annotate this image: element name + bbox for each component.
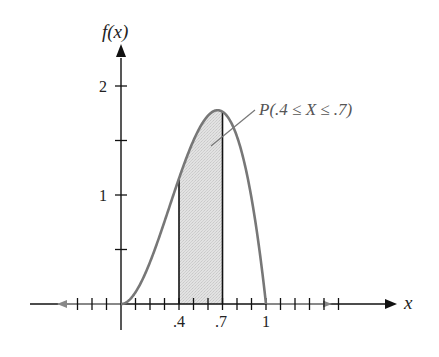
shaded-probability-region bbox=[179, 110, 223, 304]
y-tick-label-2: 2 bbox=[99, 78, 107, 95]
y-axis-label: f(x) bbox=[102, 21, 128, 43]
annotation-label: P(.4 ≤ X ≤ .7) bbox=[258, 100, 353, 119]
y-tick-label-1: 1 bbox=[99, 187, 107, 204]
y-axis-arrow-icon bbox=[116, 44, 126, 57]
x-axis-arrow-icon bbox=[385, 299, 397, 309]
x-tick-label-0.4: .4 bbox=[173, 313, 185, 330]
left-arrow-icon bbox=[57, 300, 67, 308]
x-tick-label-1: 1 bbox=[262, 313, 270, 330]
x-tick-label-0.7: .7 bbox=[215, 313, 227, 330]
density-chart: f(x) x P(.4 ≤ X ≤ .7) .4 .7 1 1 2 bbox=[0, 0, 439, 357]
x-axis-label: x bbox=[403, 292, 413, 313]
